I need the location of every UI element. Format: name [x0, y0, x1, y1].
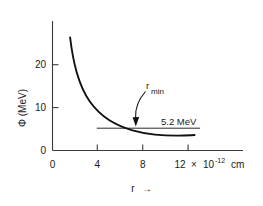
multiplication-sign: × — [191, 159, 197, 170]
y-tick-label-20: 20 — [35, 59, 47, 70]
x-axis-title: r — [131, 183, 135, 194]
r-min-arrow-curve — [136, 92, 146, 119]
x-tick-label-12: 12 — [174, 159, 186, 170]
unit-exponent: -12 — [215, 157, 225, 164]
r-min-label-sub: min — [151, 87, 164, 96]
x-axis-title-arrow: → — [142, 183, 152, 194]
y-axis-title: Φ (MeV) — [17, 89, 28, 127]
x-axis-unit-label: 12 × 10 -12 cm — [174, 157, 244, 171]
r-min-annotation: r min — [133, 80, 164, 127]
y-tick-label-0: 0 — [40, 145, 46, 156]
y-tick-labels: 20 10 0 — [35, 59, 47, 156]
x-tick-label-4: 4 — [95, 159, 101, 170]
y-tick-marks — [53, 65, 59, 108]
unit-suffix: cm — [231, 159, 244, 170]
y-axis-title-group: Φ (MeV) — [17, 89, 28, 127]
x-tick-marks — [97, 145, 188, 151]
plot-area: 20 10 0 0 4 8 12 × 10 -12 cm Φ (MeV) r → — [0, 0, 263, 206]
coulomb-potential-figure: 20 10 0 0 4 8 12 × 10 -12 cm Φ (MeV) r → — [0, 0, 263, 206]
x-tick-label-0: 0 — [50, 159, 56, 170]
x-axis-title-group: r → — [131, 183, 152, 194]
x-tick-label-8: 8 — [140, 159, 146, 170]
unit-base: 10 — [203, 159, 215, 170]
energy-value-label: 5.2 MeV — [161, 116, 197, 127]
r-min-label-main: r — [146, 80, 149, 91]
x-tick-labels: 0 4 8 — [50, 159, 146, 170]
y-tick-label-10: 10 — [35, 102, 47, 113]
r-min-arrow-head — [133, 117, 140, 127]
